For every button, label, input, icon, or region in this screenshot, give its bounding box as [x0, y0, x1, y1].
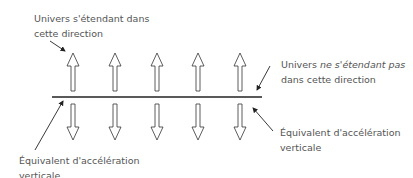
label-bottom-right: Équivalent d'accélération verticale — [280, 125, 401, 155]
pointer-bottom-left-icon — [35, 101, 63, 150]
up-arrow-icon — [109, 53, 121, 91]
down-arrow-icon — [151, 104, 163, 140]
up-arrow-icon — [151, 53, 163, 91]
pointer-top-left-icon — [50, 41, 65, 51]
down-arrow-icon — [192, 104, 204, 140]
label-top-right: Univers ne s'étendant pas dans cette dir… — [281, 57, 405, 87]
down-arrow-icon — [109, 104, 121, 140]
label-bottom-left: Équivalent d'accélération verticale — [19, 153, 140, 178]
label-top-left: Univers s'étendant dans cette direction — [34, 11, 149, 41]
down-arrows — [67, 104, 246, 140]
up-arrow-icon — [234, 53, 246, 91]
up-arrows — [67, 53, 246, 91]
down-arrow-icon — [67, 104, 79, 140]
up-arrow-icon — [192, 53, 204, 91]
up-arrow-icon — [67, 53, 79, 91]
pointer-top-right-icon — [257, 66, 270, 90]
pointer-bottom-right-icon — [253, 108, 273, 131]
down-arrow-icon — [234, 104, 246, 140]
